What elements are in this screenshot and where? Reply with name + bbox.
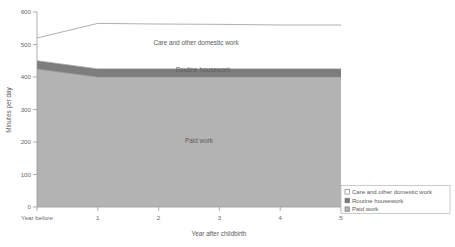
chart-canvas: 600 500 400 300 200 100 0 Minutes per da… bbox=[0, 0, 455, 247]
legend-label-routine-housework: Routine housework bbox=[352, 198, 404, 204]
inline-label-care-work: Care and other domestic work bbox=[153, 39, 239, 46]
inline-label-paid-work: Paid work bbox=[185, 137, 214, 144]
x-tick-label-4: 4 bbox=[278, 214, 282, 221]
y-tick-label-100: 100 bbox=[21, 171, 32, 178]
x-axis-title: Year after childbirth bbox=[192, 230, 247, 237]
legend-label-care-work: Care and other domestic work bbox=[352, 189, 433, 195]
y-tick-label-400: 400 bbox=[21, 73, 32, 80]
plot-area bbox=[37, 23, 341, 207]
legend-swatch-routine-housework bbox=[345, 198, 350, 203]
y-tick-label-0: 0 bbox=[28, 203, 32, 210]
y-axis-title: Minutes per day bbox=[5, 86, 13, 132]
x-tick-label-year-before: Year before bbox=[21, 214, 53, 221]
legend-label-paid-work: Paid work bbox=[352, 206, 379, 212]
y-tick-label-200: 200 bbox=[21, 138, 32, 145]
y-tick-label-300: 300 bbox=[21, 106, 32, 113]
x-tick-label-3: 3 bbox=[218, 214, 222, 221]
area-care-other-domestic-work bbox=[37, 23, 341, 69]
x-tick-label-2: 2 bbox=[157, 214, 161, 221]
legend-swatch-paid-work bbox=[345, 207, 350, 212]
x-tick-label-5: 5 bbox=[339, 214, 343, 221]
chart-legend: Care and other domestic work Routine hou… bbox=[341, 186, 450, 214]
inline-label-routine-housework: Routine housework bbox=[176, 66, 232, 73]
y-tick-label-600: 600 bbox=[21, 8, 32, 15]
y-tick-label-500: 500 bbox=[21, 41, 32, 48]
x-tick-label-1: 1 bbox=[96, 214, 100, 221]
stacked-area-chart: 600 500 400 300 200 100 0 Minutes per da… bbox=[0, 0, 455, 247]
legend-swatch-care-work bbox=[345, 190, 350, 195]
